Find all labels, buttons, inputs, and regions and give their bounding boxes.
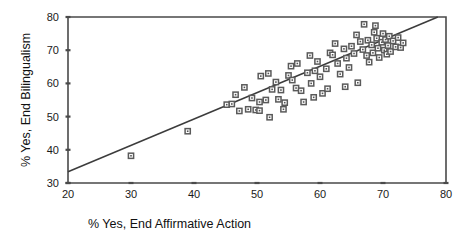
data-point [324,66,329,71]
data-point-center [367,39,369,41]
data-point-center [362,49,364,51]
data-point-center [319,76,321,78]
data-point [266,71,271,76]
data-point-center [244,87,246,89]
x-axis-tick-label: 50 [251,188,263,200]
data-point-center [235,94,237,96]
y-axis-tick-label: 80 [47,11,59,23]
data-point [343,84,348,89]
data-point-center [395,46,397,48]
data-point-center [378,57,380,59]
data-point-center [300,90,302,92]
data-point [282,100,287,105]
data-point-center [343,48,345,50]
data-point [330,52,335,57]
x-axis-title: % Yes, End Affirmative Action [88,217,251,231]
x-axis-tick-label: 70 [377,188,389,200]
data-point-center [288,75,290,77]
data-point-center [363,24,365,26]
data-point [267,115,272,120]
data-point-center [351,45,353,47]
data-point [317,74,322,79]
data-point [237,108,242,113]
data-point-center [372,52,374,54]
data-point-center [387,45,389,47]
data-point [377,55,382,60]
data-point [362,22,367,27]
data-point [360,47,365,52]
data-point-center [290,65,292,67]
data-point-center [259,101,261,103]
data-point [346,65,351,70]
data-point-center [397,37,399,39]
scatter-chart-figure: 20304050607080 304050607080 % Yes, End A… [0,0,475,239]
data-point-center [334,43,336,45]
data-point-center [283,108,285,110]
data-point [349,44,354,49]
data-point [311,95,316,100]
data-point-center [271,89,273,91]
data-point-center [284,102,286,104]
data-point-center [344,86,346,88]
data-point [301,99,306,104]
data-point [309,81,314,86]
data-point-center [346,57,348,59]
data-point-center [314,70,316,72]
data-point [246,107,251,112]
data-point [307,53,312,58]
data-point [401,40,406,45]
x-axis-tick-label: 60 [314,188,326,200]
data-point-center [339,73,341,75]
y-axis-tick-label: 70 [47,44,59,56]
data-point-center [260,75,262,77]
data-point [263,97,268,102]
data-point [355,80,360,85]
data-point-center [265,99,267,101]
data-point-center [337,63,339,65]
y-axis-tick-label: 40 [47,144,59,156]
data-point-center [275,81,277,83]
data-point [305,70,310,75]
data-point [233,92,238,97]
data-point-center [402,42,404,44]
chart-svg: 20304050607080 304050607080 % Yes, End A… [0,0,475,239]
data-point-center [383,49,385,51]
data-point-center [392,40,394,42]
data-point [333,41,338,46]
data-point [128,153,133,158]
y-axis-tick-label: 60 [47,77,59,89]
data-point-center [317,61,319,63]
data-point [288,64,293,69]
data-point-center [326,68,328,70]
data-point-center [297,63,299,65]
data-point-center [291,79,293,81]
data-point-center [327,88,329,90]
data-point [373,23,378,28]
data-point [276,97,281,102]
y-axis-tick-label-group: 304050607080 [47,11,59,189]
data-point [278,87,283,92]
data-point-center [357,82,359,84]
data-point [375,46,380,51]
data-point-center [366,55,368,57]
y-axis-title: % Yes, End Bilingualism [19,33,33,167]
data-point-center [259,110,261,112]
data-point-center [187,130,189,132]
data-point [380,31,385,36]
data-point-center [239,110,241,112]
data-point-center [268,73,270,75]
data-point-center [269,116,271,118]
data-point-center [251,97,253,99]
data-point [185,129,190,134]
data-point-center [371,44,373,46]
data-point [369,42,374,47]
data-point [249,95,254,100]
data-point [290,77,295,82]
data-point-center [303,101,305,103]
data-point [341,46,346,51]
x-axis-tick-label: 40 [188,188,200,200]
data-point [270,87,275,92]
data-point-center [382,33,384,35]
data-point [257,99,262,104]
data-point-center [356,34,358,36]
